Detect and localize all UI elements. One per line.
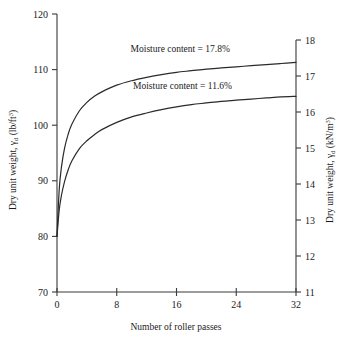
left-tick-label: 120 (33, 9, 48, 20)
left-axis-title-close: ) (8, 110, 19, 113)
right-tick-label: 15 (305, 143, 315, 154)
left-tick-label: 80 (38, 231, 48, 242)
left-tick-label: 100 (33, 120, 48, 131)
right-tick-label: 12 (305, 251, 315, 262)
right-tick-label: 13 (305, 215, 315, 226)
x-tick-label: 32 (291, 299, 301, 310)
left-axis-title-unit: (lb/ft (8, 116, 19, 138)
right-tick-label: 16 (305, 107, 315, 118)
x-tick-label: 24 (231, 299, 241, 310)
right-axis-title-close: ) (325, 117, 336, 120)
right-axis-ticks: 1112131415161718 (296, 35, 315, 298)
roller-passes-compaction-chart: 708090100110120 1112131415161718 0816243… (0, 0, 342, 340)
series-annotation-label: Moisture content = 17.8% (131, 44, 230, 54)
left-tick-label: 70 (38, 287, 48, 298)
curve-annotations: Moisture content = 17.8%Moisture content… (131, 44, 232, 91)
x-tick-label: 8 (114, 299, 119, 310)
bottom-axis-ticks: 08162432 (55, 288, 302, 310)
chart-container: 708090100110120 1112131415161718 0816243… (0, 0, 342, 340)
x-axis-title: Number of roller passes (130, 322, 221, 332)
right-tick-label: 18 (305, 35, 315, 46)
left-axis-ticks: 708090100110120 (33, 9, 57, 298)
left-tick-label: 90 (38, 175, 48, 186)
x-tick-label: 16 (172, 299, 182, 310)
x-tick-label: 0 (55, 299, 60, 310)
right-tick-label: 17 (305, 71, 315, 82)
right-tick-label: 14 (305, 179, 315, 190)
left-axis-title-prefix: Dry unit weight, (8, 145, 18, 210)
right-axis-title-unit: (kN/m (325, 123, 336, 151)
series-curve (57, 96, 296, 236)
right-tick-label: 11 (305, 287, 315, 298)
right-axis-title: Dry unit weight, γd (kN/m3) (324, 117, 336, 223)
left-axis-title: Dry unit weight, γd (lb/ft3) (7, 110, 19, 210)
right-axis-title-prefix: Dry unit weight, (325, 158, 335, 223)
left-tick-label: 110 (33, 64, 48, 75)
series-annotation-label: Moisture content = 11.6% (133, 81, 232, 91)
